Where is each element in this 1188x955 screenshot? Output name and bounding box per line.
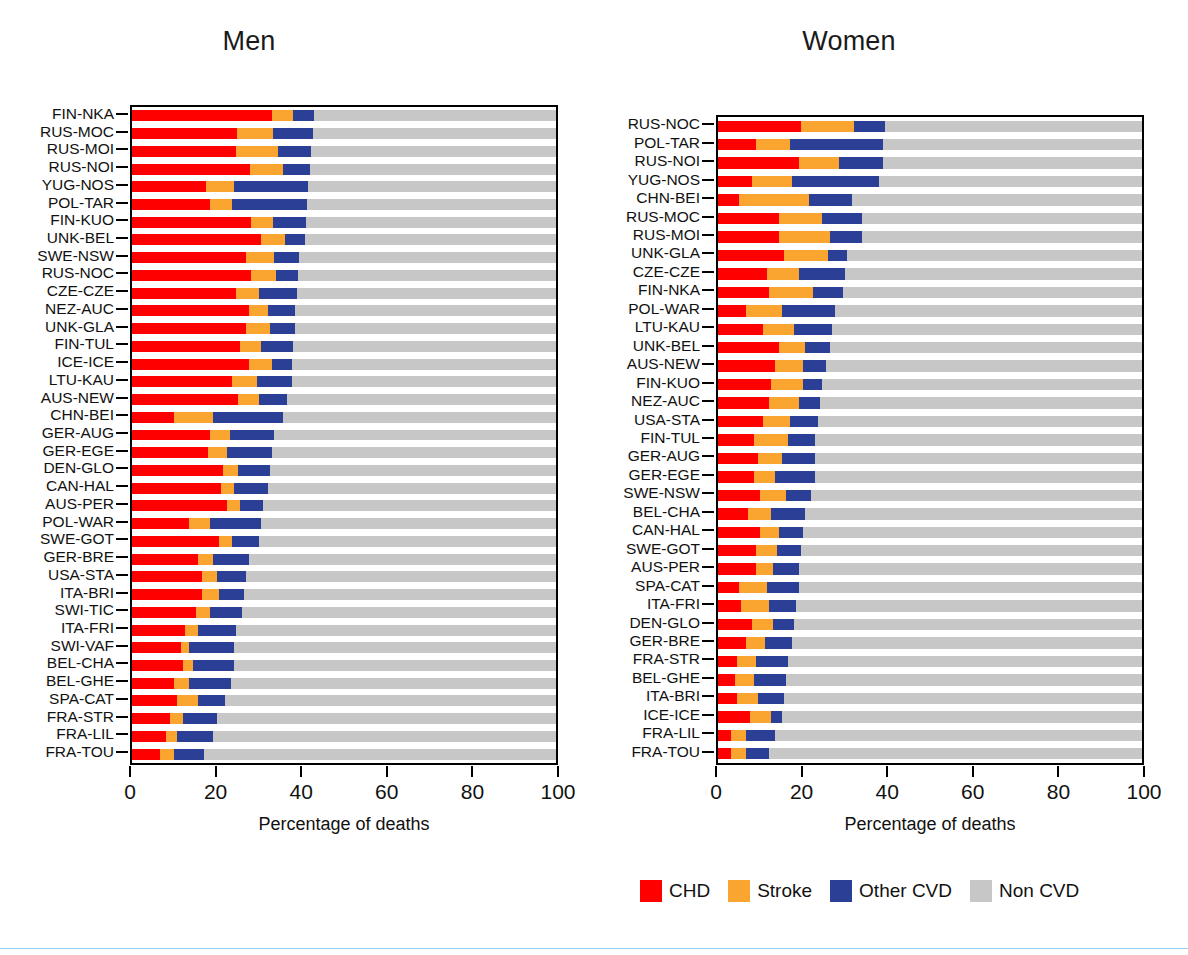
y-axis-tick [702,529,714,531]
bar-segment-stroke [784,250,829,261]
bar-segment-chd [718,563,756,574]
y-axis-label: SWE-NSW [37,248,114,264]
bar-segment-other-cvd [193,660,233,671]
bar-segment-chd [718,250,784,261]
bar-segment-non-cvd [292,359,556,370]
bar-segment-chd [132,731,166,742]
y-axis-tick [116,131,128,133]
y-axis-tick [702,566,714,568]
x-axis-tick-label: 0 [124,780,136,804]
y-axis-tick [702,142,714,144]
y-axis-tick [116,113,128,115]
bar-segment-non-cvd [803,527,1142,538]
bar-segment-non-cvd [862,231,1142,242]
y-axis-label: POL-TAR [48,195,114,211]
bar-segment-stroke [206,181,234,192]
bar-segment-stroke [760,527,779,538]
bar-segment-other-cvd [177,731,213,742]
bar-segment-non-cvd [822,379,1142,390]
bar-row [132,660,556,671]
bar-segment-non-cvd [295,305,556,316]
y-axis-tick [116,397,128,399]
x-axis-tick [557,766,559,777]
bar-row [718,471,1142,482]
bar-segment-other-cvd [238,465,270,476]
legend: CHDStrokeOther CVDNon CVD [640,880,1088,902]
bar-segment-stroke [746,305,782,316]
bar-segment-stroke [174,412,212,423]
bar-row [718,213,1142,224]
bar-segment-non-cvd [306,217,556,228]
y-axis-label: POL-WAR [42,514,114,530]
bar-row [132,625,556,636]
bar-segment-chd [718,490,760,501]
bar-segment-other-cvd [758,693,783,704]
bar-segment-other-cvd [782,453,816,464]
bar-segment-chd [718,379,771,390]
bar-row [132,181,556,192]
legend-item-stroke: Stroke [728,880,812,902]
x-axis-tick [801,766,803,777]
bar-segment-chd [718,545,756,556]
bar-segment-other-cvd [769,600,797,611]
bar-segment-non-cvd [826,360,1142,371]
bar-segment-other-cvd [771,508,805,519]
y-axis-tick [116,202,128,204]
bar-row [718,342,1142,353]
bar-segment-stroke [166,731,177,742]
y-axis-label: FRA-LIL [56,727,114,743]
bar-segment-other-cvd [273,128,313,139]
y-axis-tick [116,361,128,363]
bar-segment-chd [718,453,758,464]
y-axis-label: BEL-GHE [632,670,700,686]
bar-segment-other-cvd [792,176,879,187]
bar-segment-stroke [198,554,213,565]
y-axis-tick [116,556,128,558]
bar-segment-other-cvd [767,582,799,593]
bar-row [718,324,1142,335]
bar-segment-stroke [250,164,283,175]
y-axis-label: FRA-LIL [642,726,700,742]
bar-segment-other-cvd [805,342,830,353]
bar-segment-stroke [272,110,293,121]
y-axis-tick [116,272,128,274]
x-axis-tick [300,766,302,777]
bar-segment-stroke [202,589,219,600]
bar-row [718,656,1142,667]
bar-segment-non-cvd [314,110,556,121]
bar-segment-non-cvd [231,678,556,689]
bar-segment-non-cvd [883,139,1142,150]
bar-segment-other-cvd [217,571,247,582]
bar-segment-other-cvd [213,554,249,565]
bar-segment-stroke [174,678,189,689]
bar-segment-stroke [799,157,839,168]
bar-segment-stroke [737,693,758,704]
bar-row [132,323,556,334]
y-axis-tick [116,538,128,540]
y-axis-label: FIN-TUL [641,430,700,446]
bar-segment-non-cvd [242,607,556,618]
y-axis-tick [702,363,714,365]
y-axis-label: RUS-MOC [626,209,700,225]
bar-row [718,674,1142,685]
x-axis-tick-label: 20 [790,780,813,804]
legend-label: Non CVD [999,880,1079,902]
bar-segment-other-cvd [790,416,818,427]
bar-segment-other-cvd [788,434,816,445]
y-axis-tick [116,716,128,718]
bar-segment-stroke [219,536,232,547]
bar-segment-chd [132,660,183,671]
y-axis-tick [116,485,128,487]
bar-segment-chd [132,625,185,636]
y-axis-tick [702,179,714,181]
y-axis-tick [116,751,128,753]
y-axis-label: FRA-TOU [45,744,114,760]
bar-segment-chd [718,157,799,168]
bar-row [132,642,556,653]
x-axis-tick-label: 100 [1126,780,1161,804]
bar-row [132,305,556,316]
y-axis-label: NEZ-AUC [45,301,114,317]
x-axis-tick-label: 20 [204,780,227,804]
bar-segment-other-cvd [232,199,306,210]
bar-segment-stroke [221,483,234,494]
